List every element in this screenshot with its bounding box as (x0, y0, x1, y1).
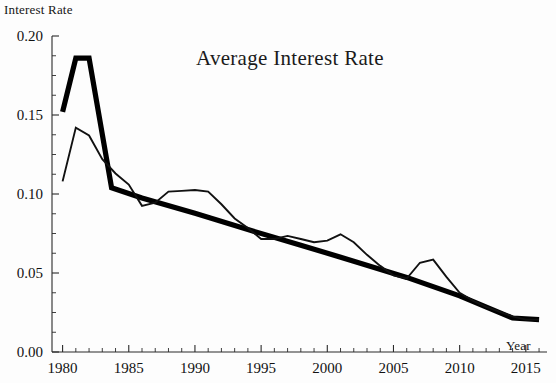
y-tick-label: 0.10 (17, 186, 43, 203)
x-tick-label: 2005 (378, 360, 408, 377)
y-axis-label: Interest Rate (4, 2, 73, 18)
x-tick-label: 1980 (48, 360, 78, 377)
x-axis-label: Year (506, 338, 531, 354)
x-tick-label: 1990 (180, 360, 210, 377)
y-tick-label: 0.15 (17, 107, 43, 124)
y-axis-ticks (52, 36, 59, 352)
series-line-actual-rate (63, 128, 539, 320)
x-tick-label: 2000 (312, 360, 342, 377)
y-tick-label: 0.00 (17, 344, 43, 361)
y-tick-label: 0.05 (17, 265, 43, 282)
series-line-thick-trend (63, 58, 539, 319)
y-tick-label: 0.20 (17, 28, 43, 45)
x-tick-label: 2015 (511, 360, 541, 377)
series-lines (63, 58, 539, 319)
x-axis-ticks (63, 345, 539, 352)
x-tick-label: 1985 (114, 360, 144, 377)
chart-title: Average Interest Rate (196, 46, 384, 71)
x-tick-label: 1995 (246, 360, 276, 377)
x-tick-label: 2010 (445, 360, 475, 377)
chart-figure: Average Interest Rate Interest Rate Year… (0, 0, 556, 383)
